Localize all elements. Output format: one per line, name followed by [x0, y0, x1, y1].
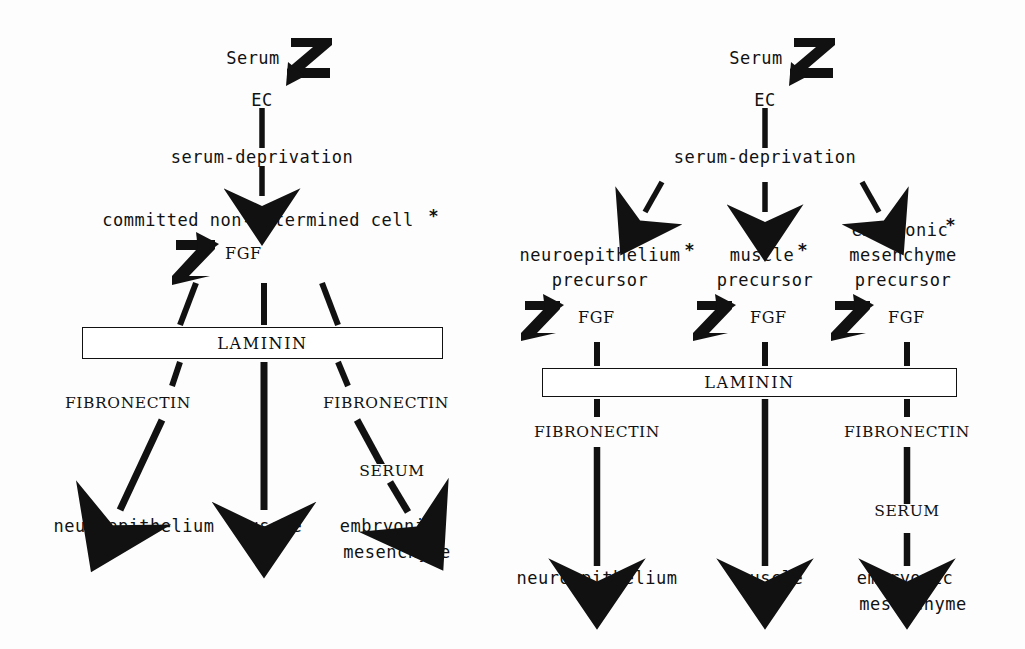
- right-precursor-neuro-line2: precursor: [552, 272, 649, 289]
- left-serum-condition-label: SERUM: [356, 464, 428, 480]
- right-precursor-muscle-line2: precursor: [717, 272, 814, 289]
- right-output-embryonic-line2: mesenchyme: [859, 596, 966, 613]
- right-precursor-embryo-asterisk: *: [946, 215, 955, 235]
- left-out3-arrow: [390, 482, 408, 512]
- left-fgf-label: FGF: [225, 246, 262, 262]
- left-output-neuroepithelium: neuroepithelium: [53, 518, 214, 535]
- left-branch-stroke-1: [180, 283, 196, 325]
- left-serum-hook-arrow: [286, 38, 332, 86]
- right-precursor-neuro-line1: neuroepithelium: [519, 247, 680, 264]
- left-out1-arrow: [120, 420, 162, 510]
- left-laminin-label: LAMININ: [217, 334, 307, 353]
- left-ec-label: EC: [251, 92, 272, 109]
- right-ec-label: EC: [754, 92, 775, 109]
- right-fgf-hook-arrow-1: [521, 294, 564, 341]
- right-laminin-box: LAMININ: [542, 368, 957, 397]
- right-output-embryonic-line1: embryonic: [857, 570, 954, 587]
- right-serum-deprivation-label: serum-deprivation: [672, 149, 859, 166]
- right-fgf-label-1: FGF: [578, 310, 615, 326]
- diagram-vector-layer: [0, 0, 1025, 649]
- right-fgf-hook-arrow-2: [693, 294, 736, 341]
- left-out3-mid: [357, 420, 382, 466]
- left-fibronectin-left-label: FIBRONECTIN: [62, 396, 194, 412]
- right-fibronectin-left-label: FIBRONECTIN: [531, 425, 663, 441]
- left-out3-stub: [338, 362, 348, 386]
- right-branch-arrow-3: [862, 182, 879, 212]
- right-output-neuroepithelium: neuroepithelium: [516, 570, 677, 587]
- right-precursor-embryo-line3: precursor: [855, 272, 952, 289]
- right-fibronectin-right-label: FIBRONECTIN: [841, 425, 973, 441]
- left-out1-stub: [172, 362, 180, 386]
- right-fgf-hook-arrow-3: [831, 294, 874, 341]
- right-serum-condition-label: SERUM: [871, 504, 943, 520]
- right-precursor-muscle-asterisk: *: [798, 240, 807, 260]
- right-precursor-neuro-asterisk: *: [685, 240, 694, 260]
- right-precursor-muscle-line1: muscle: [730, 247, 794, 264]
- left-committed-cell-asterisk: *: [429, 206, 438, 226]
- right-precursor-embryo-line2: mesenchyme: [849, 247, 956, 264]
- right-serum-hook-arrow: [789, 38, 835, 86]
- right-serum-label: Serum: [729, 50, 783, 67]
- left-output-muscle: muscle: [238, 518, 302, 535]
- right-output-muscle: muscle: [739, 570, 803, 587]
- left-serum-deprivation-label: serum-deprivation: [169, 149, 356, 166]
- left-laminin-box: LAMININ: [82, 327, 443, 359]
- left-fibronectin-right-label: FIBRONECTIN: [320, 396, 452, 412]
- right-precursor-embryo-line1: embryonic: [852, 222, 949, 239]
- right-branch-arrow-1: [645, 182, 662, 212]
- figure-canvas: Serum EC serum-deprivation committed non…: [0, 0, 1025, 649]
- left-branch-stroke-3: [322, 283, 338, 325]
- right-fgf-label-2: FGF: [750, 310, 787, 326]
- left-fgf-hook-arrow: [172, 232, 219, 285]
- left-output-embryonic-line1: embryonic: [340, 518, 437, 535]
- right-fgf-label-3: FGF: [888, 310, 925, 326]
- left-committed-cell-label: committed non-determined cell: [102, 212, 413, 229]
- right-laminin-label: LAMININ: [704, 373, 794, 392]
- left-output-embryonic-line2: mesenchyme: [343, 544, 450, 561]
- left-serum-label: Serum: [226, 50, 280, 67]
